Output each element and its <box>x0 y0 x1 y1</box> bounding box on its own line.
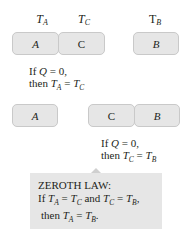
label-tb: TB <box>145 12 165 27</box>
middle-caption-line2: then TC = TB <box>101 149 156 166</box>
top-caption-line1: If Q = 0, <box>29 65 84 77</box>
zeroth-law-callout: ZEROTH LAW: If TA = TC and TC = TB, then… <box>30 173 162 229</box>
law-line3: then TA = TB. <box>38 209 154 227</box>
middle-box-b: B <box>134 104 180 127</box>
middle-caption: If Q = 0, then TC = TB <box>101 137 156 166</box>
top-box-a: A <box>12 32 59 55</box>
law-line2: If TA = TC and TC = TB, <box>38 192 154 210</box>
label-ta-sub: A <box>43 18 48 27</box>
label-tc: TC <box>74 12 94 27</box>
middle-caption-line1: If Q = 0, <box>101 137 156 149</box>
middle-box-c: C <box>88 104 135 127</box>
label-ta: TA <box>32 12 52 27</box>
top-caption-line2: then TA = TC <box>29 77 84 94</box>
top-caption: If Q = 0, then TA = TC <box>29 65 84 94</box>
middle-box-a: A <box>12 104 58 127</box>
label-tb-sub: B <box>156 18 161 27</box>
label-tc-sub: C <box>85 18 90 27</box>
label-ta-main: T <box>36 12 43 26</box>
top-box-b: B <box>133 32 179 55</box>
top-box-c: C <box>58 32 105 55</box>
law-title: ZEROTH LAW: <box>38 179 154 192</box>
label-tc-main: T <box>78 12 85 26</box>
